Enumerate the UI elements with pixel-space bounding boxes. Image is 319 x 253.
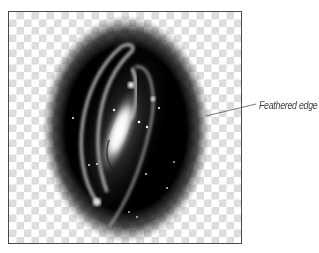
callout-leader-line <box>0 0 319 253</box>
feathered-edge-label: Feathered edge <box>259 100 317 111</box>
